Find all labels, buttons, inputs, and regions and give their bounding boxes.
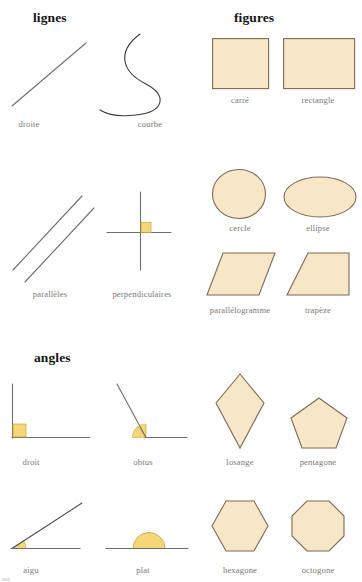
figure-carre[interactable] — [212, 38, 270, 90]
caption-hexagone: hexagone — [223, 565, 257, 575]
section-heading-lignes: lignes — [33, 10, 67, 26]
figure-courbe[interactable] — [98, 30, 198, 125]
figure-pentagone[interactable] — [290, 397, 348, 449]
carre-icon — [212, 38, 270, 90]
caption-parallelogramme: parallélogramme — [210, 305, 270, 315]
right-angle-marker — [13, 424, 26, 437]
figure-angle-droit[interactable] — [10, 382, 92, 444]
courbe-icon — [98, 30, 198, 125]
caption-losange: losange — [226, 457, 253, 467]
caption-angle-obtus: obtus — [133, 457, 152, 467]
figure-perpendiculaires[interactable] — [103, 190, 183, 272]
figure-droite[interactable] — [8, 38, 100, 110]
paralleles-icon — [10, 178, 96, 284]
octogone-icon — [291, 500, 345, 552]
figure-ellipse[interactable] — [283, 176, 357, 218]
caption-paralleles: parallèles — [33, 289, 67, 299]
geometry-reference-sheet: lignes figures angles droite courbe carr… — [0, 0, 362, 582]
angle-plat-icon — [105, 510, 189, 552]
figure-paralleles[interactable] — [10, 178, 96, 284]
ellipse-icon — [283, 176, 357, 218]
caption-perpendiculaires: perpendiculaires — [112, 289, 171, 299]
caption-angle-droit: droit — [23, 457, 40, 467]
caption-octogone: octogone — [302, 565, 335, 575]
figure-rectangle[interactable] — [283, 38, 356, 90]
caption-droite: droite — [19, 119, 40, 129]
section-heading-figures: figures — [234, 10, 274, 26]
figure-parallelogramme[interactable] — [206, 252, 276, 296]
caption-angle-plat: plat — [136, 565, 150, 575]
caption-carre: carré — [231, 95, 249, 105]
parallelogramme-icon — [206, 252, 276, 296]
caption-ellipse: ellipse — [306, 223, 329, 233]
pentagone-icon — [290, 397, 348, 449]
losange-icon — [215, 373, 265, 449]
figure-hexagone[interactable] — [211, 500, 269, 552]
page-corner-artifact — [2, 578, 10, 581]
caption-rectangle: rectangle — [302, 95, 335, 105]
caption-trapeze: trapèze — [305, 305, 331, 315]
figure-trapeze[interactable] — [286, 252, 350, 296]
figure-angle-plat[interactable] — [105, 510, 189, 552]
section-heading-angles: angles — [34, 350, 71, 366]
right-angle-marker — [141, 223, 151, 233]
angle-droit-icon — [10, 382, 92, 444]
figure-angle-aigu[interactable] — [10, 500, 92, 552]
straight-angle-marker — [133, 533, 165, 549]
caption-courbe: courbe — [138, 119, 162, 129]
figure-cercle[interactable] — [211, 168, 267, 220]
perpendiculaires-icon — [103, 190, 183, 272]
hexagone-icon — [211, 500, 269, 552]
figure-angle-obtus[interactable] — [98, 382, 188, 444]
trapeze-icon — [286, 252, 350, 296]
angle-obtus-icon — [98, 382, 188, 444]
droite-icon — [8, 38, 100, 110]
caption-cercle: cercle — [229, 223, 250, 233]
figure-octogone[interactable] — [291, 500, 345, 552]
caption-pentagone: pentagone — [300, 457, 337, 467]
angle-aigu-icon — [10, 500, 92, 552]
caption-angle-aigu: aigu — [23, 565, 38, 575]
cercle-icon — [211, 168, 267, 220]
rectangle-icon — [283, 38, 356, 90]
figure-losange[interactable] — [215, 373, 265, 449]
